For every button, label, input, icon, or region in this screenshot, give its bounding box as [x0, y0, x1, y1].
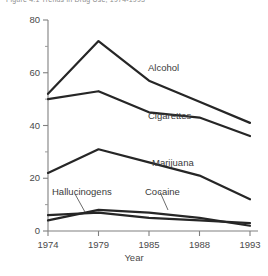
y-axis-ticks [43, 20, 48, 231]
x-tick-label: 1979 [79, 239, 119, 250]
series-label-alcohol: Alcohol [148, 62, 179, 73]
x-tick-label: 1993 [230, 239, 268, 250]
y-tick-label: 20 [16, 172, 40, 183]
chart-canvas [0, 0, 268, 276]
series-label-marijuana: Marijuana [152, 157, 194, 168]
y-tick-label: 40 [16, 120, 40, 131]
x-tick-label: 1988 [180, 239, 220, 250]
series-label-cigarettes: Cigarettes [148, 110, 191, 121]
series-label-cocaine: Cocaine [145, 186, 180, 197]
x-axis-title: Year [104, 252, 164, 263]
drug-use-line-chart: Figure 4.1 Trends in Drug Use, 1974-1993… [0, 0, 268, 276]
x-tick-label: 1985 [129, 239, 169, 250]
series-line-hallucinogens [48, 213, 250, 224]
x-tick-label: 1974 [28, 239, 68, 250]
y-tick-label: 60 [16, 67, 40, 78]
x-axis-ticks [48, 231, 250, 236]
series-label-hallucinogens: Hallucinogens [52, 186, 112, 197]
y-tick-label: 0 [16, 225, 40, 236]
y-tick-label: 80 [16, 14, 40, 25]
